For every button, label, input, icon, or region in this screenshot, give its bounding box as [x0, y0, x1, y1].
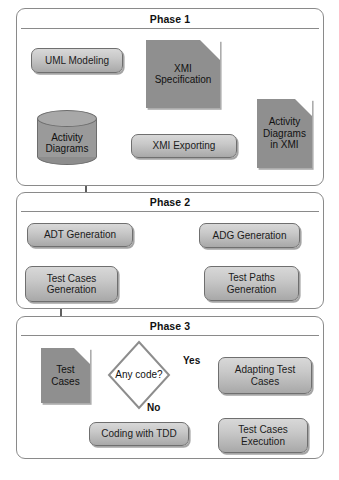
node-activity-diagrams-xmi-label: Activity Diagrams in XMI — [263, 116, 306, 151]
node-test-paths-generation-line2: Generation — [227, 284, 276, 295]
document-fold-corner — [200, 40, 220, 60]
node-activity-diagrams-xmi-line2: Diagrams — [263, 128, 306, 140]
phase-1-title: Phase 1 — [17, 13, 323, 25]
node-test-cases-execution-line1: Test Cases — [238, 424, 287, 435]
node-adt-generation-label: ADT Generation — [44, 229, 116, 240]
node-xmi-exporting[interactable]: XMI Exporting — [131, 134, 237, 158]
node-xmi-specification-line1: XMI — [155, 63, 212, 75]
node-adapting-test-cases-line1: Adapting Test — [235, 364, 295, 375]
node-test-cases-document-line1: Test — [51, 364, 79, 376]
node-test-cases-execution-line2: Execution — [238, 436, 287, 447]
node-any-code-decision[interactable]: Any code? — [107, 340, 171, 410]
node-activity-diagrams-xmi-line1: Activity — [263, 116, 306, 128]
phase-2-rule — [21, 211, 319, 212]
node-test-cases-document-line2: Cases — [51, 376, 79, 388]
node-adapting-test-cases-line2: Cases — [235, 376, 295, 387]
node-adt-generation[interactable]: ADT Generation — [27, 223, 133, 247]
node-test-cases-document[interactable]: Test Cases — [41, 348, 90, 403]
node-test-paths-generation-label: Test Paths Generation — [227, 272, 276, 294]
node-test-cases-document-label: Test Cases — [51, 364, 79, 387]
node-activity-diagrams-line1: Activity — [51, 132, 83, 143]
node-activity-diagrams-xmi[interactable]: Activity Diagrams in XMI — [257, 99, 312, 168]
node-adg-generation[interactable]: ADG Generation — [199, 223, 300, 248]
node-activity-diagrams-xmi-line3: in XMI — [263, 139, 306, 151]
node-adapting-test-cases[interactable]: Adapting Test Cases — [218, 357, 312, 394]
flowchart-canvas: Phase 1 UML Modeling Activity Diagrams X… — [0, 0, 339, 480]
node-test-cases-generation-line1: Test Cases — [47, 273, 96, 284]
node-xmi-specification-line2: Specification — [155, 74, 212, 86]
edge-label-no: No — [147, 402, 160, 413]
node-activity-diagrams-line2: Diagrams — [46, 143, 89, 154]
node-xmi-specification[interactable]: XMI Specification — [146, 40, 220, 108]
node-test-cases-execution-label: Test Cases Execution — [238, 424, 287, 446]
node-test-cases-execution[interactable]: Test Cases Execution — [218, 418, 308, 453]
node-adapting-test-cases-label: Adapting Test Cases — [235, 364, 295, 386]
node-uml-modeling-label: UML Modeling — [45, 55, 109, 66]
node-coding-with-tdd[interactable]: Coding with TDD — [89, 422, 189, 446]
document-fold-corner — [74, 348, 90, 364]
phase-3-rule — [21, 335, 319, 336]
node-activity-diagrams[interactable]: Activity Diagrams — [37, 110, 97, 166]
node-activity-diagrams-label: Activity Diagrams — [37, 132, 97, 154]
edge-label-yes: Yes — [183, 355, 200, 366]
node-xmi-exporting-label: XMI Exporting — [153, 140, 216, 151]
phase-1-rule — [21, 28, 319, 29]
node-uml-modeling[interactable]: UML Modeling — [31, 48, 123, 73]
phase-3-title: Phase 3 — [17, 320, 323, 332]
node-xmi-specification-label: XMI Specification — [155, 63, 212, 86]
phase-2-title: Phase 2 — [17, 196, 323, 208]
node-test-cases-generation-line2: Generation — [47, 284, 96, 295]
document-fold-corner — [295, 99, 312, 116]
node-any-code-label: Any code? — [107, 369, 171, 380]
node-coding-with-tdd-label: Coding with TDD — [101, 428, 176, 439]
node-test-cases-generation[interactable]: Test Cases Generation — [25, 266, 118, 302]
node-test-cases-generation-label: Test Cases Generation — [47, 273, 96, 295]
node-test-paths-generation-line1: Test Paths — [227, 272, 276, 283]
cylinder-top-cap — [37, 110, 97, 127]
node-test-paths-generation[interactable]: Test Paths Generation — [204, 266, 299, 301]
node-adg-generation-label: ADG Generation — [213, 230, 287, 241]
